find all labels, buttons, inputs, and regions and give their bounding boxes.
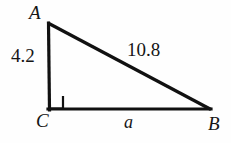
vertex-label-b: B bbox=[208, 114, 220, 133]
right-angle-marker-icon bbox=[51, 96, 64, 109]
geometry-figure: A C B 4.2 10.8 a bbox=[0, 0, 231, 143]
side-length-label-ab: 10.8 bbox=[127, 40, 160, 59]
vertex-label-a: A bbox=[29, 3, 41, 22]
triangle-leg-ac bbox=[49, 23, 50, 110]
side-variable-label-cb: a bbox=[124, 113, 133, 131]
side-length-label-ac: 4.2 bbox=[11, 46, 35, 65]
triangle-hypotenuse-ab bbox=[48, 23, 211, 110]
vertex-label-c: C bbox=[36, 111, 49, 130]
